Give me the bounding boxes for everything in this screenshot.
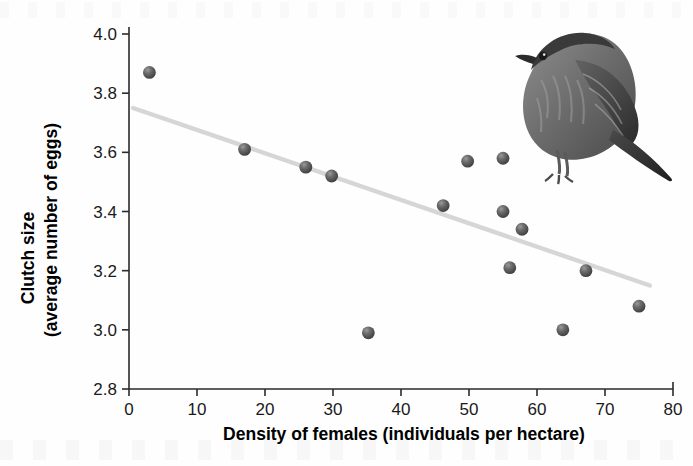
- data-point-6[interactable]: [461, 155, 474, 168]
- data-point-8[interactable]: [497, 205, 510, 218]
- y-tick-label-2.8: 2.8: [93, 380, 117, 399]
- sparrow-illustration: [487, 18, 675, 188]
- data-point-10[interactable]: [503, 261, 516, 274]
- x-tick-label-50: 50: [460, 400, 479, 419]
- y-axis-ticks: 2.83.03.23.43.63.84.0: [93, 25, 129, 399]
- data-point-11[interactable]: [556, 323, 569, 336]
- x-tick-label-40: 40: [392, 400, 411, 419]
- bird-beak: [515, 55, 537, 64]
- bird-tail: [609, 130, 672, 181]
- scatter-plot-figure: 2.83.03.23.43.63.84.0 01020304050607080 …: [0, 0, 693, 466]
- data-point-9[interactable]: [516, 223, 529, 236]
- bird-eye-glint: [543, 53, 546, 56]
- x-tick-label-0: 0: [124, 400, 133, 419]
- x-tick-label-80: 80: [664, 400, 683, 419]
- x-tick-label-10: 10: [188, 400, 207, 419]
- x-axis-ticks: 01020304050607080: [124, 389, 682, 419]
- data-point-2[interactable]: [299, 161, 312, 174]
- y-tick-label-3.6: 3.6: [93, 143, 117, 162]
- x-tick-label-70: 70: [596, 400, 615, 419]
- data-point-3[interactable]: [325, 170, 338, 183]
- y-tick-label-3.2: 3.2: [93, 262, 117, 281]
- x-tick-label-20: 20: [256, 400, 275, 419]
- data-point-1[interactable]: [238, 143, 251, 156]
- y-axis-label-line1: Clutch size: [18, 212, 38, 305]
- bird-feet: [545, 174, 573, 184]
- x-axis-label: Density of females (individuals per hect…: [223, 424, 585, 444]
- x-tick-label-60: 60: [528, 400, 547, 419]
- y-tick-label-3.0: 3.0: [93, 321, 117, 340]
- y-tick-label-4.0: 4.0: [93, 25, 117, 44]
- x-tick-label-30: 30: [324, 400, 343, 419]
- data-point-13[interactable]: [633, 300, 646, 313]
- y-tick-label-3.8: 3.8: [93, 84, 117, 103]
- data-point-4[interactable]: [362, 326, 375, 339]
- y-tick-label-3.4: 3.4: [93, 203, 117, 222]
- data-point-12[interactable]: [580, 264, 593, 277]
- y-axis-label-line2: (average number of eggs): [41, 123, 61, 337]
- data-point-5[interactable]: [437, 199, 450, 212]
- data-point-0[interactable]: [143, 66, 156, 79]
- bird-eye: [539, 52, 547, 60]
